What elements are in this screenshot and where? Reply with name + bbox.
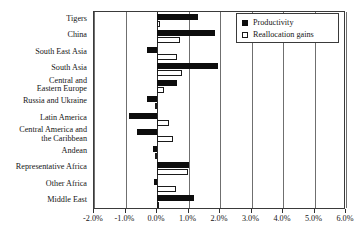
category-label: South Asia (0, 64, 87, 73)
bar-productivity (157, 14, 198, 20)
category-label: Central and Eastern Europe (0, 77, 87, 94)
category-label: Tigers (0, 15, 87, 24)
bar-group (94, 161, 344, 178)
bar-group (94, 95, 344, 112)
bar-group (94, 62, 344, 79)
bar-productivity (157, 162, 189, 168)
bar-reallocation-gains (157, 37, 180, 43)
bar-productivity (129, 113, 157, 119)
bar-reallocation-gains (157, 202, 159, 208)
category-axis-labels: TigersChinaSouth East AsiaSouth AsiaCent… (0, 11, 90, 209)
legend-swatch-hollow-icon (242, 32, 248, 38)
bar-productivity (154, 179, 157, 185)
bar-reallocation-gains (157, 87, 164, 93)
bar-reallocation-gains (157, 70, 182, 76)
bar-productivity (147, 96, 157, 102)
chart-legend: Productivity Reallocation gains (236, 13, 339, 43)
bar-productivity (137, 129, 157, 135)
bar-group (94, 194, 344, 211)
bar-group (94, 45, 344, 62)
gridline (346, 12, 347, 208)
bar-reallocation-gains (157, 169, 188, 175)
x-tick-label: 6.0% (323, 213, 358, 224)
bar-group (94, 78, 344, 95)
legend-label: Productivity (253, 18, 293, 27)
bar-productivity (157, 63, 218, 69)
bar-reallocation-gains (157, 21, 160, 27)
legend-swatch-filled-icon (242, 20, 248, 26)
category-label: China (0, 31, 87, 40)
category-label: Latin America (0, 114, 87, 123)
bar-productivity (157, 30, 215, 36)
category-label: Russia and Ukraine (0, 97, 87, 106)
bar-productivity (147, 47, 157, 53)
bar-reallocation-gains (157, 186, 176, 192)
bar-group (94, 111, 344, 128)
category-label: South East Asia (0, 48, 87, 57)
bar-reallocation-gains (157, 120, 169, 126)
legend-item-reallocation-gains: Reallocation gains (242, 29, 334, 40)
category-label: Other Africa (0, 180, 87, 189)
bar-group (94, 144, 344, 161)
bar-reallocation-gains (157, 54, 177, 60)
bar-productivity (153, 146, 157, 152)
legend-label: Reallocation gains (253, 30, 314, 39)
bar-productivity (157, 80, 177, 86)
bar-productivity (157, 195, 194, 201)
category-label: Andean (0, 147, 87, 156)
category-label: Middle East (0, 196, 87, 205)
bar-reallocation-gains (155, 103, 157, 109)
legend-item-productivity: Productivity (242, 17, 334, 28)
category-label: Representative Africa (0, 163, 87, 172)
category-label: Central America and the Caribbean (0, 126, 87, 143)
bar-reallocation-gains (155, 153, 157, 159)
bar-reallocation-gains (157, 136, 173, 142)
bar-group (94, 177, 344, 194)
x-axis-tick-labels: -2.0%-1.0%0.0%1.0%2.0%3.0%4.0%5.0%6.0% (0, 213, 346, 229)
bar-group (94, 128, 344, 145)
